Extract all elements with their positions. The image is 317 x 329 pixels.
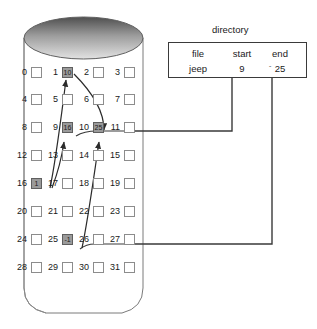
block-index-label-28: 28	[9, 261, 27, 273]
block-index-label-8: 8	[9, 121, 27, 133]
block-index-label-31: 31	[102, 261, 120, 273]
block-cell-23[interactable]	[124, 206, 135, 217]
block-value-15	[125, 151, 134, 160]
block-index-label-26: 26	[71, 233, 89, 245]
block-value-19	[125, 179, 134, 188]
block-index-label-14: 14	[71, 149, 89, 161]
block-cell-19[interactable]	[124, 178, 135, 189]
block-cell-31[interactable]	[124, 262, 135, 273]
block-index-label-16: 16	[9, 177, 27, 189]
block-cell-3[interactable]	[124, 67, 135, 78]
block-index-label-13: 13	[40, 149, 58, 161]
block-index-label-30: 30	[71, 261, 89, 273]
block-index-label-21: 21	[40, 205, 58, 217]
block-index-label-23: 23	[102, 205, 120, 217]
block-index-label-7: 7	[102, 93, 120, 105]
block-value-7	[125, 95, 134, 104]
directory-cell-file[interactable]: jeep	[175, 62, 221, 75]
block-index-label-29: 29	[40, 261, 58, 273]
block-cell-27[interactable]	[124, 234, 135, 245]
block-index-label-2: 2	[71, 66, 89, 78]
block-value-31	[125, 263, 134, 272]
block-index-label-5: 5	[40, 93, 58, 105]
block-index-label-9: 9	[40, 121, 58, 133]
block-cell-11[interactable]	[124, 122, 135, 133]
block-index-label-20: 20	[9, 205, 27, 217]
block-index-label-6: 6	[71, 93, 89, 105]
directory-title: directory	[212, 24, 248, 35]
disk-cylinder-top	[24, 17, 143, 59]
block-index-label-4: 4	[9, 93, 27, 105]
block-cell-15[interactable]	[124, 150, 135, 161]
block-index-label-3: 3	[102, 66, 120, 78]
block-index-label-17: 17	[40, 177, 58, 189]
block-cell-7[interactable]	[124, 94, 135, 105]
block-index-label-10: 10	[71, 121, 89, 133]
block-value-11	[125, 123, 134, 132]
block-index-label-0: 0	[9, 66, 27, 78]
block-index-label-15: 15	[102, 149, 120, 161]
block-value-3	[125, 68, 134, 77]
block-index-label-11: 11	[102, 121, 120, 133]
block-value-27	[125, 235, 134, 244]
block-index-label-12: 12	[9, 149, 27, 161]
block-index-label-1: 1	[40, 66, 58, 78]
block-index-label-27: 27	[102, 233, 120, 245]
block-index-label-22: 22	[71, 205, 89, 217]
directory-table: file start end jeep 9 ˇ 25	[168, 42, 307, 78]
directory-cell-end[interactable]: 25	[259, 62, 301, 75]
directory-header-end: end	[259, 47, 301, 60]
start-connector	[131, 78, 232, 131]
end-connector	[131, 78, 272, 244]
block-index-label-24: 24	[9, 233, 27, 245]
block-index-label-25: 25	[40, 233, 58, 245]
block-value-23	[125, 207, 134, 216]
diagram-canvas: 0110234567891610251112131415161171819202…	[0, 0, 317, 329]
directory-header-file: file	[175, 47, 221, 60]
block-index-label-19: 19	[102, 177, 120, 189]
block-index-label-18: 18	[71, 177, 89, 189]
